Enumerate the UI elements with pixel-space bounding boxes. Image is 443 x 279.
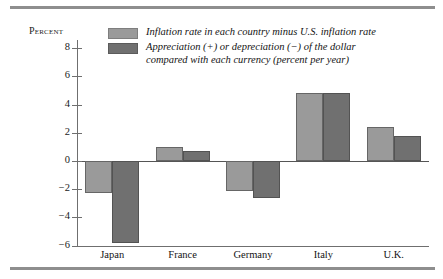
bar-uk-series2 xyxy=(394,136,421,161)
y-axis-tick xyxy=(72,105,82,106)
bar-italy-series1 xyxy=(296,93,323,161)
y-axis-tick xyxy=(72,217,82,218)
legend-swatch-inflation xyxy=(108,28,138,39)
y-axis-tick xyxy=(72,161,82,162)
category-label-germany: Germany xyxy=(213,249,293,260)
y-axis-tick-label: −2 xyxy=(30,182,70,193)
y-axis-tick xyxy=(72,48,82,49)
y-axis-title: Percent xyxy=(29,25,63,36)
bar-chart: Percent 86420−2−4−6 Inflation rate in ea… xyxy=(0,0,443,279)
legend-label-appreciation: Appreciation (+) or depreciation (−) of … xyxy=(146,41,356,66)
bar-france-series1 xyxy=(156,147,183,161)
bar-uk-series1 xyxy=(367,127,394,161)
y-axis-tick-label: −6 xyxy=(30,239,70,250)
y-axis-tick-label: 8 xyxy=(30,41,70,52)
y-axis-tick-label: −4 xyxy=(30,210,70,221)
y-axis-line xyxy=(77,40,78,246)
y-axis-tick xyxy=(72,133,82,134)
y-axis-tick-label: 6 xyxy=(30,69,70,80)
bar-japan-series1 xyxy=(85,161,112,193)
legend-swatch-appreciation xyxy=(108,43,138,54)
category-label-uk: U.K. xyxy=(354,249,434,260)
bar-japan-series2 xyxy=(112,161,139,243)
legend-item-inflation: Inflation rate in each country minus U.S… xyxy=(108,26,376,39)
y-axis-tick-label: 0 xyxy=(30,154,70,165)
y-axis-tick xyxy=(72,189,82,190)
plot-bottom-line xyxy=(77,246,429,247)
category-label-italy: Italy xyxy=(283,249,363,260)
legend-item-appreciation: Appreciation (+) or depreciation (−) of … xyxy=(108,41,376,66)
y-axis-tick xyxy=(72,76,82,77)
legend-label-inflation: Inflation rate in each country minus U.S… xyxy=(146,26,376,39)
bar-italy-series2 xyxy=(323,93,350,161)
chart-legend: Inflation rate in each country minus U.S… xyxy=(108,26,376,68)
bar-france-series2 xyxy=(183,151,210,161)
bar-germany-series2 xyxy=(253,161,280,198)
category-label-japan: Japan xyxy=(72,249,152,260)
y-axis-tick-label: 2 xyxy=(30,126,70,137)
y-axis-tick xyxy=(72,246,82,247)
category-label-france: France xyxy=(143,249,223,260)
bar-germany-series1 xyxy=(226,161,253,191)
y-axis-tick-label: 4 xyxy=(30,98,70,109)
